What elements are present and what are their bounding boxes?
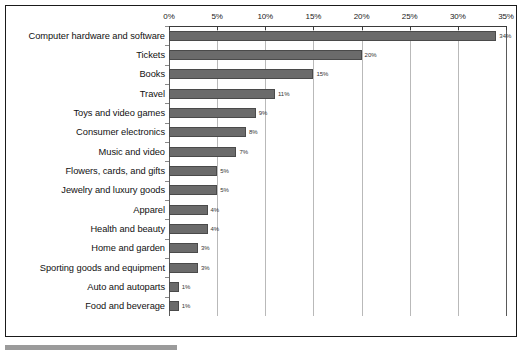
category-label: Apparel — [133, 205, 165, 215]
bar-value-label: 7% — [239, 149, 248, 155]
bar-row: Sporting goods and equipment3% — [6, 258, 518, 277]
bar — [169, 31, 496, 41]
category-tickmark — [165, 45, 169, 46]
bar-value-label: 5% — [220, 168, 229, 174]
bar-row: Flowers, cards, and gifts5% — [6, 161, 518, 180]
chart-figure: 0%5%10%15%20%25%30%35% Computer hardware… — [5, 5, 517, 337]
category-tickmark — [165, 219, 169, 220]
bar-row: Tickets20% — [6, 45, 518, 64]
category-label: Books — [139, 69, 165, 79]
bar — [169, 205, 208, 215]
bar-row: Computer hardware and software34% — [6, 26, 518, 45]
bar-value-label: 8% — [249, 129, 258, 135]
bar — [169, 89, 275, 99]
category-tickmark — [165, 161, 169, 162]
bar — [169, 108, 256, 118]
bar — [169, 147, 236, 157]
category-tickmark — [165, 84, 169, 85]
bar-row: Toys and video games9% — [6, 103, 518, 122]
axis-tick-label: 25% — [402, 12, 418, 21]
bar-value-label: 1% — [182, 303, 191, 309]
bar-value-label: 15% — [316, 71, 328, 77]
bar-value-label: 34% — [499, 33, 511, 39]
bar — [169, 166, 217, 176]
bar-value-label: 11% — [278, 91, 290, 97]
category-label: Auto and autoparts — [87, 282, 165, 292]
category-label: Flowers, cards, and gifts — [65, 166, 165, 176]
category-tickmark — [165, 200, 169, 201]
bar-row: Books15% — [6, 65, 518, 84]
bar — [169, 127, 246, 137]
bar — [169, 282, 179, 292]
bar-value-label: 9% — [259, 110, 268, 116]
category-tickmark — [165, 258, 169, 259]
bar-row: Auto and autoparts1% — [6, 277, 518, 296]
bar-value-label: 5% — [220, 187, 229, 193]
bar — [169, 263, 198, 273]
bottom-gray-strip — [5, 345, 177, 350]
axis-tick-label: 20% — [354, 12, 370, 21]
bar-row: Jewelry and luxury goods5% — [6, 181, 518, 200]
category-tickmark — [165, 277, 169, 278]
bar-rows: Computer hardware and software34%Tickets… — [6, 26, 518, 316]
bar — [169, 69, 313, 79]
bar-row: Home and garden3% — [6, 239, 518, 258]
category-label: Tickets — [136, 50, 165, 60]
category-label: Consumer electronics — [76, 127, 165, 137]
category-label: Computer hardware and software — [29, 31, 165, 41]
category-label: Sporting goods and equipment — [40, 263, 165, 273]
category-tickmark — [165, 142, 169, 143]
category-label: Jewelry and luxury goods — [61, 185, 165, 195]
bar-row: Music and video7% — [6, 142, 518, 161]
bar — [169, 301, 179, 311]
category-tickmark — [165, 65, 169, 66]
bar-row: Food and beverage1% — [6, 297, 518, 316]
bar — [169, 50, 362, 60]
category-label: Home and garden — [91, 243, 165, 253]
category-label: Travel — [140, 89, 165, 99]
axis-tick-label: 5% — [211, 12, 222, 21]
bar — [169, 224, 208, 234]
axis-tick-label: 15% — [306, 12, 322, 21]
category-label: Music and video — [99, 147, 165, 157]
axis-tick-label: 0% — [163, 12, 174, 21]
axis-tick-label: 30% — [450, 12, 466, 21]
category-label: Food and beverage — [85, 301, 165, 311]
category-tickmark — [165, 239, 169, 240]
category-label: Health and beauty — [90, 224, 165, 234]
bar — [169, 185, 217, 195]
bar-value-label: 20% — [365, 52, 377, 58]
category-tickmark — [165, 297, 169, 298]
bar-value-label: 1% — [182, 284, 191, 290]
bar-value-label: 4% — [211, 207, 220, 213]
bar-value-label: 3% — [201, 265, 210, 271]
bar-row: Health and beauty4% — [6, 219, 518, 238]
bar — [169, 243, 198, 253]
bar-row: Consumer electronics8% — [6, 123, 518, 142]
category-tickmark — [165, 103, 169, 104]
category-tickmark — [165, 123, 169, 124]
bar-row: Travel11% — [6, 84, 518, 103]
category-tickmark — [165, 26, 169, 27]
bar-row: Apparel4% — [6, 200, 518, 219]
category-tickmark — [165, 181, 169, 182]
axis-tick-label: 10% — [257, 12, 273, 21]
axis-tick-label: 35% — [498, 12, 514, 21]
bar-value-label: 3% — [201, 245, 210, 251]
category-label: Toys and video games — [73, 108, 165, 118]
bar-value-label: 4% — [211, 226, 220, 232]
